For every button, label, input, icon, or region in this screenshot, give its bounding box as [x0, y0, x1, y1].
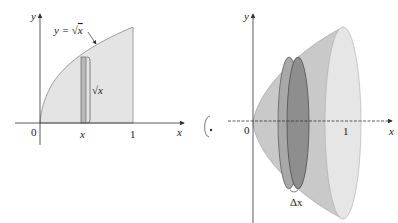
solid-end-face — [325, 27, 361, 219]
left-x-label: x — [176, 126, 182, 138]
curve-pointer — [88, 32, 96, 44]
strip-x-label: x — [79, 128, 85, 140]
right-panel — [228, 14, 392, 223]
left-origin-label: 0 — [31, 126, 37, 138]
right-tick-one: 1 — [343, 125, 349, 137]
left-y-label: y — [30, 10, 36, 22]
curve-label: y = √x — [53, 24, 83, 36]
approximating-strip — [81, 57, 86, 123]
disk-face — [287, 57, 309, 189]
left-panel — [15, 14, 184, 145]
figure-canvas: y y = √x √x 0 x 1 x y 0 1 x Δx — [0, 0, 398, 223]
right-x-label: x — [388, 125, 394, 137]
right-origin-label: 0 — [244, 124, 250, 136]
right-y-label: y — [243, 10, 249, 22]
rotation-icon — [205, 116, 213, 137]
strip-height-label: √x — [92, 84, 103, 96]
delta-x-brace — [290, 190, 298, 192]
left-tick-one: 1 — [130, 128, 136, 140]
region-under-curve — [40, 27, 133, 123]
delta-x-label: Δx — [290, 196, 303, 208]
